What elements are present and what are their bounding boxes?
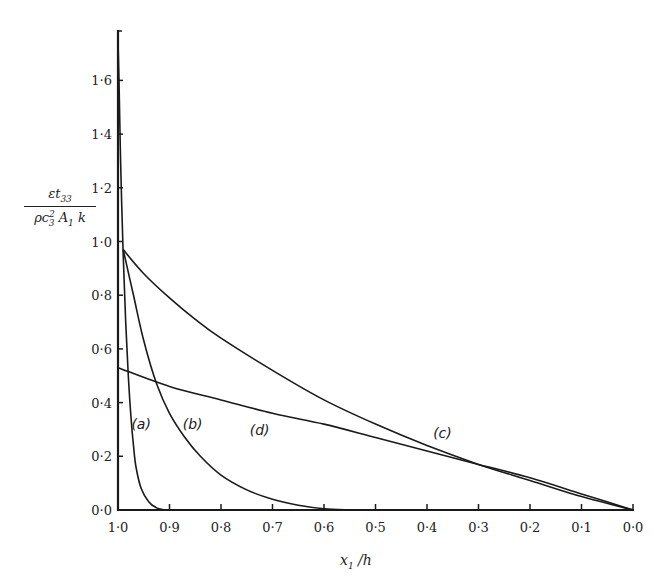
y-den-text-a: ρc [34,210,49,225]
y-den-text-c: k [74,210,86,225]
curve-label-b: (b) [183,416,203,432]
x-tick-label: 0·4 [417,520,438,535]
y-tick-label: 1·0 [91,235,112,250]
y-tick-label: 1·4 [91,127,112,142]
chart-canvas: 1·00·90·80·70·60·50·40·30·20·10·0 0·00·2… [0,0,655,587]
y-den-text-b: A [55,210,69,225]
y-tick-label: 0·6 [91,342,112,357]
y-tick-label: 0·4 [91,396,112,411]
x-label-main: x [340,552,348,568]
curve-label-c: (c) [433,425,452,441]
x-label-rest: /h [354,552,372,568]
y-axis-label-numerator: εt33 [24,186,96,207]
x-axis-label: x1 /h [340,552,372,571]
y-axis-label: εt33 ρc23 A1 k [24,186,96,228]
y-num-sub: 33 [60,194,71,204]
x-tick-label: 0·6 [314,520,335,535]
x-tick-label: 0·2 [520,520,541,535]
x-tick-label: 0·3 [468,520,489,535]
curve-a [118,40,164,510]
y-num-text: εt [48,186,60,201]
curve-c [123,250,633,510]
x-tick-label: 1·0 [108,520,129,535]
y-tick-label: 0·2 [91,449,112,464]
y-tick-label: 0·8 [91,288,112,303]
x-tick-label: 0·0 [623,520,644,535]
x-tick-label: 0·8 [211,520,232,535]
y-axis-label-denominator: ρc23 A1 k [24,207,96,228]
curve-label-d: (d) [250,422,270,438]
x-tick-label: 0·7 [262,520,283,535]
x-ticks: 1·00·90·80·70·60·50·40·30·20·10·0 [108,504,644,535]
curve-label-a: (a) [131,416,151,432]
x-tick-label: 0·9 [159,520,180,535]
x-tick-label: 0·1 [571,520,592,535]
curve-b [123,250,350,510]
x-tick-label: 0·5 [365,520,386,535]
curves [118,40,633,510]
axes [117,30,634,511]
y-tick-label: 0·0 [91,503,112,518]
y-tick-label: 1·6 [91,73,112,88]
